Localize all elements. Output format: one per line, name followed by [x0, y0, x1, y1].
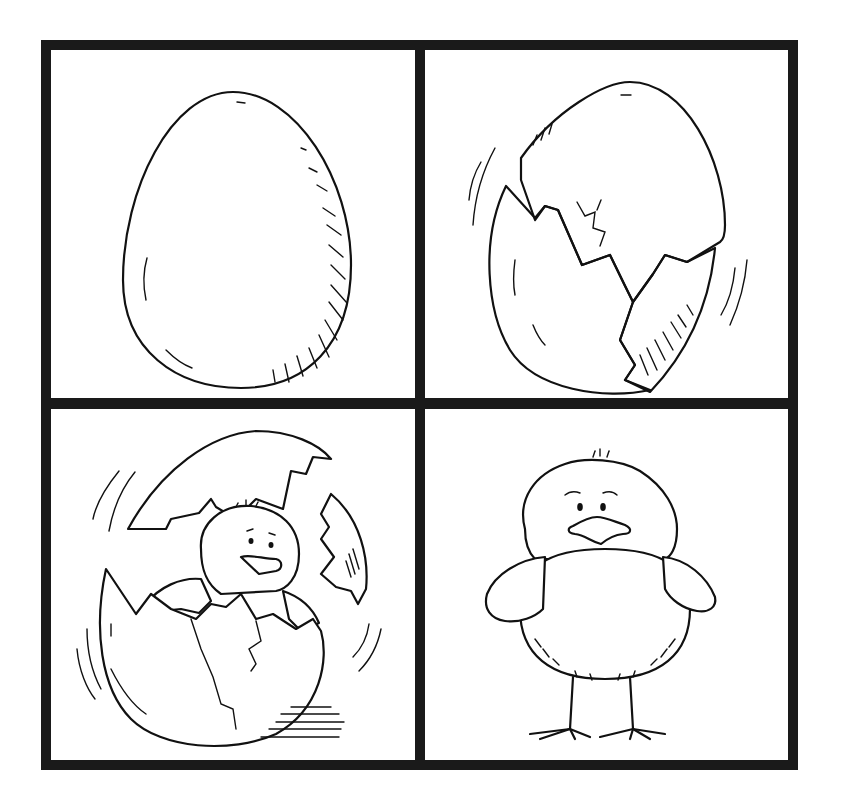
- panel-whole-egg: [51, 50, 415, 398]
- panel-cracking-egg: [425, 50, 788, 398]
- chick-illustration: [425, 409, 788, 760]
- panel-chick: [425, 409, 788, 760]
- hatching-chick-illustration: [51, 409, 415, 760]
- sequence-grid-frame: [41, 40, 798, 770]
- cracking-egg-illustration: [425, 50, 788, 398]
- egg-illustration: [51, 50, 415, 398]
- panel-hatching-chick: [51, 409, 415, 760]
